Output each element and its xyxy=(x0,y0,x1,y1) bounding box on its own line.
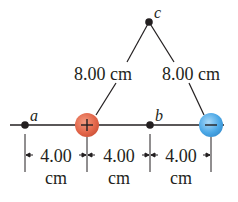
segment-3-value: 4.00 xyxy=(165,146,197,166)
point-a-label: a xyxy=(30,107,38,124)
negative-charge xyxy=(199,113,223,137)
segment-1-unit: cm xyxy=(45,168,67,188)
distance-label-left: 8.00 cm xyxy=(74,64,132,84)
point-c-label: c xyxy=(154,4,161,21)
side-left-lower xyxy=(96,83,116,115)
point-a xyxy=(21,121,29,129)
side-right-upper xyxy=(149,22,174,62)
positive-charge xyxy=(75,113,99,137)
distance-label-right: 8.00 cm xyxy=(162,64,220,84)
segment-1-value: 4.00 xyxy=(40,146,72,166)
side-right-lower xyxy=(189,83,204,115)
point-b-label: b xyxy=(155,107,163,124)
charge-diagram: 8.00 cm 8.00 cm c a b 4.00 cm 4.00 cm 4.… xyxy=(0,0,238,202)
point-c xyxy=(145,18,153,26)
side-left-upper xyxy=(127,22,149,62)
segment-3-unit: cm xyxy=(170,168,192,188)
segment-2-value: 4.00 xyxy=(103,146,135,166)
point-b xyxy=(146,121,154,129)
segment-2-unit: cm xyxy=(108,168,130,188)
